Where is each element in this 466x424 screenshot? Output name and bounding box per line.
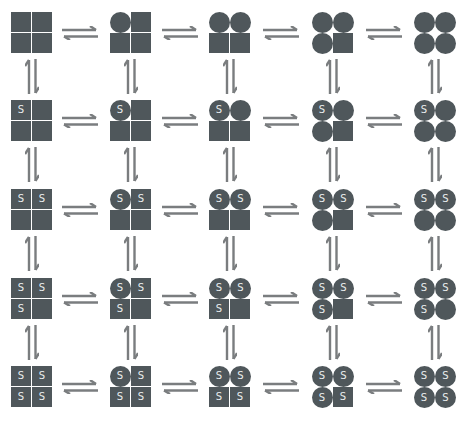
r-state-subunit-tl (312, 12, 333, 33)
equilibrium-arrow-horizontal (61, 26, 99, 40)
t-state-subunit-br (131, 121, 151, 141)
t-state-subunit-br (32, 33, 52, 53)
equilibrium-arrow-horizontal (61, 380, 99, 394)
complex-r5-c3: SSSS (209, 366, 251, 408)
complex-r5-c4: SSSS (312, 366, 354, 408)
t-state-subunit-br (230, 121, 250, 141)
r-state-subunit-tl: S (312, 100, 333, 121)
r-state-subunit-bl: S (414, 299, 435, 320)
equilibrium-arrow-horizontal (262, 380, 300, 394)
t-state-subunit-br: S (333, 387, 353, 407)
equilibrium-arrow-vertical (223, 58, 237, 96)
t-state-subunit-bl: S (209, 387, 229, 407)
t-state-subunit-br: S (131, 387, 151, 407)
ligand-label: S (216, 371, 222, 381)
t-state-subunit-bl (11, 33, 31, 53)
r-state-subunit-tl: S (209, 278, 230, 299)
r-state-subunit-tr: S (435, 366, 456, 387)
t-state-subunit-br (333, 121, 353, 141)
t-state-subunit-br (32, 299, 52, 319)
ligand-label: S (319, 105, 325, 115)
t-state-subunit-br: S (32, 387, 52, 407)
ligand-label: S (117, 283, 123, 293)
r-state-subunit-tr (435, 100, 456, 121)
r-state-subunit-bl: S (312, 299, 333, 320)
complex-r2-c5: S (414, 100, 456, 142)
r-state-subunit-tl: S (312, 366, 333, 387)
ligand-label: S (117, 105, 123, 115)
r-state-subunit-tr: S (435, 189, 456, 210)
r-state-subunit-bl (312, 121, 333, 142)
r-state-subunit-tr: S (230, 278, 251, 299)
ligand-label: S (421, 105, 427, 115)
ligand-label: S (138, 283, 144, 293)
ligand-label: S (216, 392, 222, 402)
equilibrium-arrow-vertical (326, 146, 340, 184)
ligand-label: S (319, 194, 325, 204)
equilibrium-arrow-vertical (124, 58, 138, 96)
equilibrium-arrow-horizontal (161, 26, 199, 40)
equilibrium-arrow-horizontal (262, 292, 300, 306)
t-state-subunit-br (32, 121, 52, 141)
t-state-subunit-bl (11, 210, 31, 230)
ligand-label: S (442, 283, 448, 293)
ligand-label: S (319, 283, 325, 293)
t-state-subunit-tr (32, 12, 52, 32)
t-state-subunit-tl: S (11, 189, 31, 209)
t-state-subunit-bl: S (209, 299, 229, 319)
r-state-subunit-tr (333, 12, 354, 33)
t-state-subunit-bl (209, 33, 229, 53)
equilibrium-arrow-vertical (124, 235, 138, 273)
r-state-subunit-tl: S (209, 100, 230, 121)
complex-r1-c2 (110, 12, 152, 54)
complex-r4-c3: SSS (209, 278, 251, 320)
ligand-label: S (442, 371, 448, 381)
r-state-subunit-br (435, 299, 456, 320)
r-state-subunit-tl: S (414, 100, 435, 121)
ligand-label: S (18, 105, 24, 115)
ligand-label: S (117, 371, 123, 381)
t-state-subunit-bl: S (11, 299, 31, 319)
equilibrium-arrow-horizontal (161, 380, 199, 394)
t-state-subunit-br: S (230, 387, 250, 407)
t-state-subunit-tr (32, 100, 52, 120)
equilibrium-arrow-vertical (428, 146, 442, 184)
equilibrium-arrow-horizontal (262, 26, 300, 40)
complex-r3-c5: SS (414, 189, 456, 231)
complex-r3-c2: SS (110, 189, 152, 231)
ligand-label: S (421, 283, 427, 293)
ligand-label: S (319, 393, 325, 403)
equilibrium-arrow-horizontal (262, 203, 300, 217)
ligand-label: S (237, 283, 243, 293)
equilibrium-arrow-horizontal (61, 292, 99, 306)
t-state-subunit-tr (131, 100, 151, 120)
ligand-label: S (138, 194, 144, 204)
r-state-subunit-br (435, 121, 456, 142)
r-state-subunit-tl: S (110, 189, 131, 210)
ligand-label: S (138, 392, 144, 402)
ligand-label: S (421, 393, 427, 403)
t-state-subunit-bl (11, 121, 31, 141)
ligand-label: S (340, 283, 346, 293)
r-state-subunit-tl: S (110, 100, 131, 121)
t-state-subunit-tr: S (32, 278, 52, 298)
t-state-subunit-bl (209, 121, 229, 141)
complex-r3-c4: SS (312, 189, 354, 231)
equilibrium-arrow-horizontal (161, 203, 199, 217)
equilibrium-arrow-vertical (223, 235, 237, 273)
t-state-subunit-tl: S (11, 366, 31, 386)
t-state-subunit-br (333, 210, 353, 230)
equilibrium-arrow-horizontal (365, 380, 403, 394)
t-state-subunit-br (131, 33, 151, 53)
t-state-subunit-bl: S (110, 387, 130, 407)
equilibrium-arrow-vertical (428, 324, 442, 362)
ligand-label: S (216, 283, 222, 293)
t-state-subunit-tr: S (131, 189, 151, 209)
r-state-subunit-tl (209, 12, 230, 33)
ligand-label: S (138, 371, 144, 381)
r-state-subunit-tl (110, 12, 131, 33)
complex-r3-c3: SS (209, 189, 251, 231)
equilibrium-arrow-vertical (25, 324, 39, 362)
ligand-label: S (442, 393, 448, 403)
r-state-subunit-tl: S (110, 278, 131, 299)
